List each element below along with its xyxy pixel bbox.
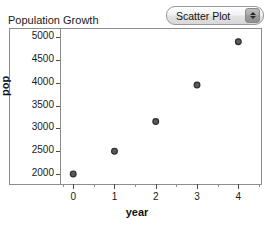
x-tick-label: 1 [99, 191, 129, 202]
triangle-down-icon[interactable] [250, 16, 256, 19]
x-axis-label: year [0, 206, 274, 218]
y-tick-label: 4500 [4, 53, 54, 64]
y-tick-label: 5000 [4, 30, 54, 41]
y-tick-label: 2500 [4, 144, 54, 155]
plot-type-dropdown[interactable]: Scatter Plot [166, 6, 264, 25]
plot-type-dropdown-label: Scatter Plot [167, 10, 245, 22]
x-tick-label: 2 [141, 191, 171, 202]
triangle-up-icon[interactable] [250, 12, 256, 15]
page-title: Population Growth [8, 14, 99, 26]
scatter-plot-widget: Population Growth Scatter Plot pop year … [0, 0, 274, 231]
x-tick-label: 4 [223, 191, 253, 202]
y-tick-label: 2000 [4, 167, 54, 178]
y-tick-label: 4000 [4, 76, 54, 87]
x-tick-label: 3 [182, 191, 212, 202]
x-tick-label: 0 [58, 191, 88, 202]
y-tick-label: 3000 [4, 121, 54, 132]
stepper-control[interactable] [245, 8, 260, 23]
y-tick-label: 3500 [4, 99, 54, 110]
